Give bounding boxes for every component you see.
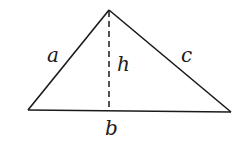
triangle-diagram: a h c b bbox=[0, 0, 239, 141]
label-c: c bbox=[181, 43, 192, 67]
base-b-line bbox=[28, 110, 231, 112]
label-b: b bbox=[105, 116, 118, 140]
label-h: h bbox=[117, 52, 130, 76]
side-a-line bbox=[28, 10, 109, 110]
label-a: a bbox=[47, 43, 59, 67]
